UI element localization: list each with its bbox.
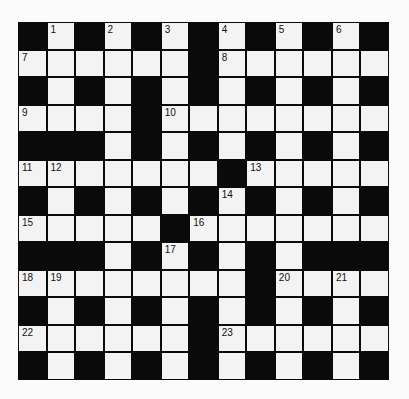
- grid-cell[interactable]: [48, 298, 75, 324]
- grid-cell[interactable]: [219, 216, 246, 242]
- grid-cell[interactable]: 20: [276, 271, 303, 297]
- grid-cell[interactable]: 4: [219, 23, 246, 49]
- grid-cell[interactable]: [247, 216, 274, 242]
- grid-cell[interactable]: [76, 51, 103, 77]
- grid-cell[interactable]: [162, 133, 189, 159]
- grid-cell[interactable]: [304, 216, 331, 242]
- grid-cell[interactable]: [48, 326, 75, 352]
- grid-cell[interactable]: [162, 51, 189, 77]
- grid-cell[interactable]: [276, 133, 303, 159]
- grid-cell[interactable]: 3: [162, 23, 189, 49]
- grid-cell[interactable]: [48, 78, 75, 104]
- grid-cell[interactable]: [105, 298, 132, 324]
- grid-cell[interactable]: [162, 161, 189, 187]
- grid-cell[interactable]: [105, 161, 132, 187]
- grid-cell[interactable]: [333, 188, 360, 214]
- grid-cell[interactable]: [76, 326, 103, 352]
- grid-cell[interactable]: [361, 51, 388, 77]
- grid-cell[interactable]: [76, 216, 103, 242]
- grid-cell[interactable]: [333, 353, 360, 379]
- grid-cell[interactable]: 5: [276, 23, 303, 49]
- grid-cell[interactable]: [361, 271, 388, 297]
- grid-cell[interactable]: [333, 106, 360, 132]
- grid-cell[interactable]: [276, 298, 303, 324]
- grid-cell[interactable]: [105, 243, 132, 269]
- grid-cell[interactable]: [304, 51, 331, 77]
- grid-cell[interactable]: [76, 161, 103, 187]
- grid-cell[interactable]: [105, 51, 132, 77]
- grid-cell[interactable]: [105, 133, 132, 159]
- grid-cell[interactable]: [105, 78, 132, 104]
- grid-cell[interactable]: 12: [48, 161, 75, 187]
- grid-cell[interactable]: [361, 326, 388, 352]
- grid-cell[interactable]: [219, 353, 246, 379]
- grid-cell[interactable]: 7: [19, 51, 46, 77]
- grid-cell[interactable]: [276, 51, 303, 77]
- grid-cell[interactable]: [276, 216, 303, 242]
- grid-cell[interactable]: [276, 78, 303, 104]
- grid-cell[interactable]: 15: [19, 216, 46, 242]
- grid-cell[interactable]: [105, 353, 132, 379]
- grid-cell[interactable]: [304, 106, 331, 132]
- grid-cell[interactable]: 9: [19, 106, 46, 132]
- grid-cell[interactable]: [333, 326, 360, 352]
- grid-cell[interactable]: [219, 243, 246, 269]
- grid-cell[interactable]: [333, 133, 360, 159]
- grid-cell[interactable]: [105, 271, 132, 297]
- grid-cell[interactable]: [48, 106, 75, 132]
- grid-cell[interactable]: [276, 326, 303, 352]
- grid-cell[interactable]: [76, 271, 103, 297]
- grid-cell[interactable]: [162, 326, 189, 352]
- grid-cell[interactable]: [190, 271, 217, 297]
- grid-cell[interactable]: [133, 326, 160, 352]
- grid-cell[interactable]: 16: [190, 216, 217, 242]
- grid-cell[interactable]: 11: [19, 161, 46, 187]
- grid-cell[interactable]: [247, 51, 274, 77]
- grid-cell[interactable]: [105, 188, 132, 214]
- grid-cell[interactable]: [247, 326, 274, 352]
- grid-cell[interactable]: [361, 106, 388, 132]
- grid-cell[interactable]: [190, 106, 217, 132]
- grid-cell[interactable]: [162, 188, 189, 214]
- grid-cell[interactable]: [276, 243, 303, 269]
- grid-cell[interactable]: [276, 188, 303, 214]
- grid-cell[interactable]: [162, 298, 189, 324]
- grid-cell[interactable]: 6: [333, 23, 360, 49]
- grid-cell[interactable]: [190, 161, 217, 187]
- grid-cell[interactable]: 23: [219, 326, 246, 352]
- grid-cell[interactable]: [219, 78, 246, 104]
- grid-cell[interactable]: [219, 106, 246, 132]
- grid-cell[interactable]: [48, 188, 75, 214]
- grid-cell[interactable]: [361, 216, 388, 242]
- grid-cell[interactable]: 1: [48, 23, 75, 49]
- grid-cell[interactable]: [333, 78, 360, 104]
- grid-cell[interactable]: [304, 271, 331, 297]
- grid-cell[interactable]: [304, 161, 331, 187]
- grid-cell[interactable]: [48, 51, 75, 77]
- grid-cell[interactable]: [133, 271, 160, 297]
- grid-cell[interactable]: [219, 133, 246, 159]
- grid-cell[interactable]: [247, 106, 274, 132]
- grid-cell[interactable]: [76, 106, 103, 132]
- grid-cell[interactable]: 8: [219, 51, 246, 77]
- grid-cell[interactable]: [276, 161, 303, 187]
- grid-cell[interactable]: [48, 216, 75, 242]
- grid-cell[interactable]: 22: [19, 326, 46, 352]
- grid-cell[interactable]: [333, 161, 360, 187]
- grid-cell[interactable]: 10: [162, 106, 189, 132]
- grid-cell[interactable]: [361, 161, 388, 187]
- grid-cell[interactable]: [333, 298, 360, 324]
- grid-cell[interactable]: [304, 326, 331, 352]
- grid-cell[interactable]: 14: [219, 188, 246, 214]
- grid-cell[interactable]: [162, 271, 189, 297]
- grid-cell[interactable]: 21: [333, 271, 360, 297]
- grid-cell[interactable]: [162, 78, 189, 104]
- grid-cell[interactable]: [162, 353, 189, 379]
- grid-cell[interactable]: [333, 216, 360, 242]
- grid-cell[interactable]: [48, 353, 75, 379]
- grid-cell[interactable]: [105, 106, 132, 132]
- grid-cell[interactable]: [333, 51, 360, 77]
- grid-cell[interactable]: [219, 271, 246, 297]
- grid-cell[interactable]: [133, 51, 160, 77]
- grid-cell[interactable]: [133, 161, 160, 187]
